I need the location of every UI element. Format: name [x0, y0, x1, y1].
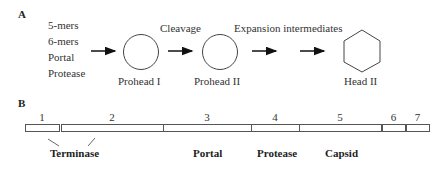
function-protease: Protease [257, 147, 297, 159]
terminase-pointer-line [48, 139, 59, 146]
gene-4-box [251, 124, 300, 132]
function-terminase: Terminase [50, 147, 99, 159]
gene-7-box [406, 124, 430, 132]
function-portal: Portal [193, 147, 222, 159]
gene-3-number: 3 [163, 111, 251, 123]
head-ii-hexagon-icon [344, 30, 380, 72]
prohead-ii-circle-icon [203, 35, 238, 70]
gene-6-number: 6 [382, 111, 405, 123]
terminase-pointer-line [88, 138, 95, 146]
gene-6-box [382, 124, 406, 132]
prohead-i-circle-icon [124, 35, 159, 70]
gene-1-box [25, 124, 60, 132]
panel-b-label: B [18, 97, 25, 109]
gene-3-box [163, 124, 252, 132]
gene-1-number: 1 [25, 111, 59, 123]
gene-7-number: 7 [406, 111, 429, 123]
gene-5-box [299, 124, 382, 132]
gene-2-box [61, 124, 164, 132]
head-ii-label: Head II [344, 75, 377, 87]
function-capsid: Capsid [325, 147, 358, 159]
gene-4-number: 4 [251, 111, 299, 123]
prohead-ii-label: Prohead II [194, 75, 240, 87]
prohead-i-label: Prohead I [118, 75, 160, 87]
gene-5-number: 5 [299, 111, 381, 123]
gene-2-number: 2 [61, 111, 163, 123]
